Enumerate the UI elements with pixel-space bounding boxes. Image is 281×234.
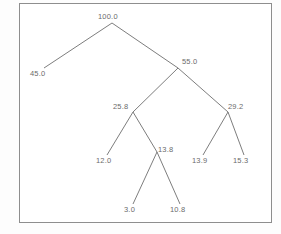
tree-edge [157,152,180,204]
tree-node-label: 25.8 [113,103,128,111]
edge-group [44,23,244,204]
tree-leaf-label: 45.0 [30,70,45,78]
tree-node-label: 29.2 [228,103,243,111]
tree-node-label: 100.0 [98,13,118,21]
tree-edge [178,68,228,112]
tree-leaf-label: 10.8 [170,206,185,214]
tree-leaf-label: 13.9 [192,157,207,165]
tree-diagram: 100.045.055.025.829.212.013.813.915.33.0… [0,0,281,234]
tree-leaf-label: 12.0 [96,157,111,165]
tree-node-label: 55.0 [182,58,197,66]
tree-edge [133,112,157,152]
tree-edge [228,112,244,155]
tree-edge [107,112,133,155]
tree-edge [44,23,112,68]
tree-leaf-label: 3.0 [124,206,135,214]
tree-edge [133,152,157,204]
tree-edge [112,23,178,68]
tree-node-label: 13.8 [158,146,173,154]
tree-edge [133,68,178,112]
tree-edge [203,112,228,155]
tree-edges-layer [0,0,281,234]
tree-leaf-label: 15.3 [233,157,248,165]
